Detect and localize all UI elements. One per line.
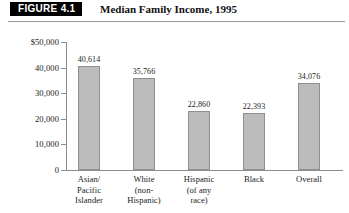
y-axis-tick-label: 30,000: [35, 88, 59, 98]
bar-chart: 010,00020,00030,00040,000$50,000 40,6143…: [0, 22, 349, 213]
y-axis-tick-label: 10,000: [35, 139, 59, 149]
y-axis-tick-label: 20,000: [35, 114, 59, 124]
x-axis-category-line: Black: [227, 174, 281, 185]
bar-value-label: 40,614: [63, 55, 115, 64]
y-axis-tick-label: 40,000: [35, 63, 59, 73]
x-axis-category-line: Hispanic): [117, 195, 171, 206]
y-axis-tick: [61, 42, 66, 43]
y-axis-tick: [61, 170, 66, 171]
x-axis-category-line: Islander: [62, 195, 116, 206]
y-axis-tick: [61, 93, 66, 94]
y-axis-tick: [61, 144, 66, 145]
figure-header: FIGURE 4.1 Median Family Income, 1995: [0, 0, 349, 22]
y-axis-tick: [61, 68, 66, 69]
x-axis-category-label: White(non-Hispanic): [117, 174, 171, 206]
figure-title: Median Family Income, 1995: [100, 2, 237, 16]
x-axis-line: [66, 170, 343, 171]
bar: [188, 111, 210, 170]
figure-number-badge: FIGURE 4.1: [10, 2, 82, 16]
x-axis-category-line: Hispanic: [172, 174, 226, 185]
x-axis-category-line: Pacific: [62, 185, 116, 196]
y-axis-tick: [61, 119, 66, 120]
bar-value-label: 22,393: [228, 102, 280, 111]
x-axis-category-line: Overall: [282, 174, 336, 185]
x-axis-category-label: Hispanic(of anyrace): [172, 174, 226, 206]
x-axis-category-line: (of any: [172, 185, 226, 196]
bar: [78, 66, 100, 170]
x-axis-category-line: race): [172, 195, 226, 206]
x-axis-category-label: Asian/PacificIslander: [62, 174, 116, 206]
bar: [243, 113, 265, 170]
bar-value-label: 35,766: [118, 67, 170, 76]
y-axis-tick-label: $50,000: [31, 37, 59, 47]
x-axis-category-line: (non-: [117, 185, 171, 196]
x-axis-category-label: Black: [227, 174, 281, 185]
bar: [133, 78, 155, 170]
x-axis-category-line: White: [117, 174, 171, 185]
y-axis-tick-label: 0: [55, 165, 59, 175]
x-axis-category-line: Asian/: [62, 174, 116, 185]
x-axis-category-label: Overall: [282, 174, 336, 185]
bar-value-label: 22,860: [173, 100, 225, 109]
bar-value-label: 34,076: [283, 72, 335, 81]
bar: [298, 83, 320, 170]
